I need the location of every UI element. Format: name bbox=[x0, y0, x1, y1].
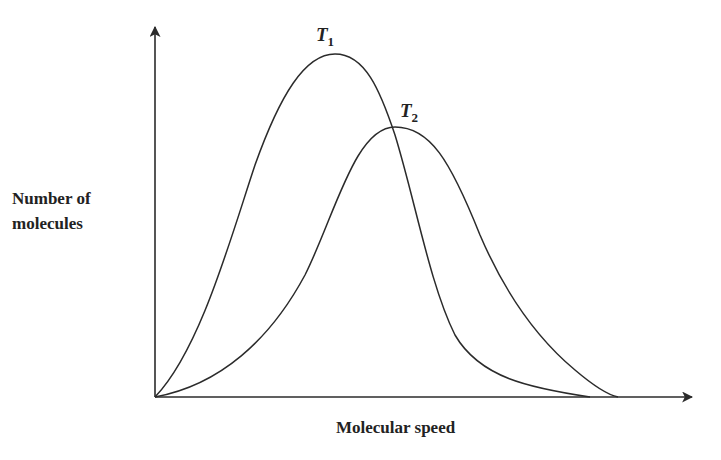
curve-t2 bbox=[155, 127, 618, 397]
curve-t1 bbox=[155, 54, 590, 397]
curve-label-t2-main: T bbox=[400, 100, 412, 121]
curve-label-t1-main: T bbox=[316, 24, 328, 45]
y-axis-label: Number of molecules bbox=[12, 186, 152, 236]
curve-label-t1-sub: 1 bbox=[328, 34, 335, 49]
y-axis-label-line1: Number of bbox=[12, 186, 152, 211]
curve-label-t1: T1 bbox=[316, 24, 334, 50]
curve-label-t2: T2 bbox=[400, 100, 418, 126]
curve-label-t2-sub: 2 bbox=[412, 110, 419, 125]
x-axis-label: Molecular speed bbox=[336, 418, 455, 438]
y-axis-label-line2: molecules bbox=[12, 211, 152, 236]
